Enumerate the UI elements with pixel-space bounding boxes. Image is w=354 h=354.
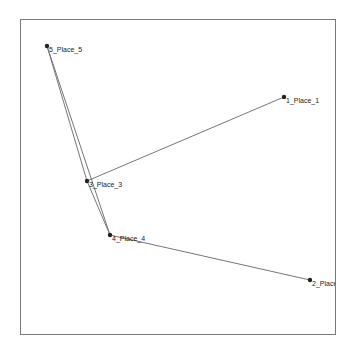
node-place-4[interactable]: 4_Place_4: [108, 233, 145, 243]
node-label: 5_Place_5: [49, 46, 82, 54]
node-label: 3_Place_3: [89, 181, 122, 189]
edge-3-1: [87, 97, 284, 181]
graph-canvas: 5_Place_51_Place_13_Place_34_Place_42_Pl…: [0, 0, 354, 354]
edge-5-3: [47, 46, 87, 181]
edges-layer: [47, 46, 310, 280]
edge-5-4: [47, 46, 110, 235]
node-label: 1_Place_1: [286, 97, 319, 105]
edge-3-4: [87, 181, 110, 235]
node-place-2[interactable]: 2_Place_: [308, 278, 341, 288]
node-label: 4_Place_4: [112, 235, 145, 243]
network-graph: 5_Place_51_Place_13_Place_34_Place_42_Pl…: [0, 0, 354, 354]
node-label: 2_Place_: [312, 280, 341, 288]
node-place-3[interactable]: 3_Place_3: [85, 179, 122, 189]
nodes-layer: 5_Place_51_Place_13_Place_34_Place_42_Pl…: [45, 44, 341, 288]
node-place-1[interactable]: 1_Place_1: [282, 95, 319, 105]
node-place-5[interactable]: 5_Place_5: [45, 44, 82, 54]
